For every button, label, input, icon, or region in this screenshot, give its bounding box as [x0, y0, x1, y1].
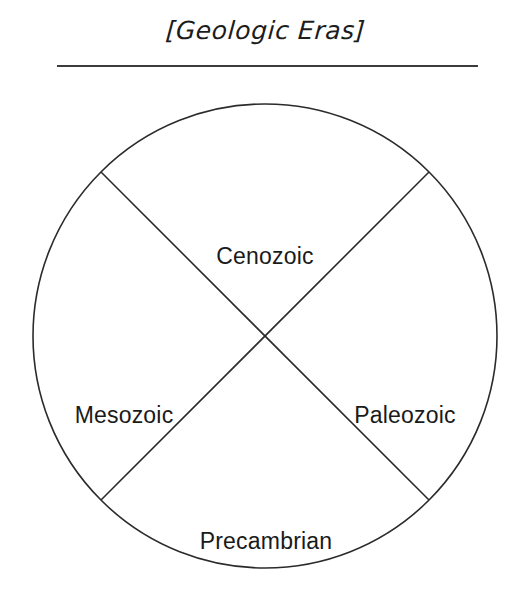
sector-label-mesozoic: Mesozoic — [75, 402, 174, 429]
sector-label-paleozoic: Paleozoic — [354, 402, 456, 429]
sector-label-precambrian: Precambrian — [200, 528, 333, 555]
sector-label-cenozoic: Cenozoic — [216, 243, 314, 270]
title-block: [Geologic Eras] — [0, 0, 531, 70]
title-divider — [57, 65, 478, 67]
era-circle-svg — [0, 70, 531, 595]
diagram-canvas: [Geologic Eras] Cenozoic Mesozoic Precam… — [0, 0, 531, 595]
geologic-eras-diagram: Cenozoic Mesozoic Precambrian Paleozoic — [0, 70, 531, 595]
page-title: [Geologic Eras] — [0, 16, 531, 45]
